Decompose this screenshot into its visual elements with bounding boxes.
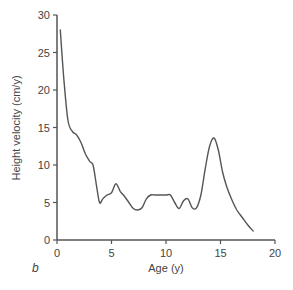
x-tick-label: 10 [160,247,172,259]
chart: 051015202530 05101520 Age (y) Height vel… [0,0,293,290]
y-tick-label: 20 [38,84,50,96]
y-tick-label: 30 [38,9,50,21]
y-tick-label: 10 [38,159,50,171]
height-velocity-line [60,30,253,231]
y-tick-label: 15 [38,122,50,134]
panel-label: b [32,261,39,275]
x-tick-label: 15 [214,247,226,259]
y-tick-label: 25 [38,47,50,59]
x-axis: 05101520 [54,240,281,259]
y-axis: 051015202530 [38,9,57,246]
x-tick-label: 5 [108,247,114,259]
y-tick-label: 0 [44,234,50,246]
y-tick-label: 5 [44,197,50,209]
x-axis-title: Age (y) [148,262,183,274]
x-tick-label: 0 [54,247,60,259]
x-tick-label: 20 [269,247,281,259]
y-axis-title: Height velocity (cm/y) [10,75,22,180]
